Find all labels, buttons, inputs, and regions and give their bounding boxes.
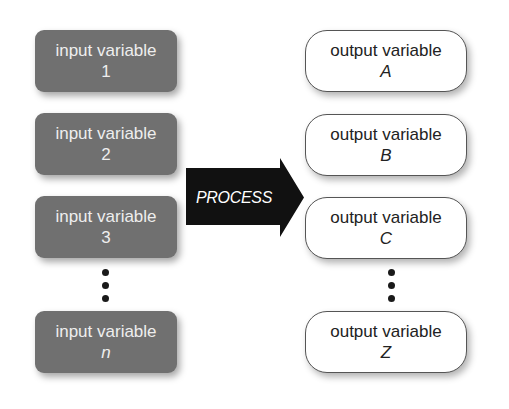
dot-icon — [102, 269, 109, 276]
input-variable-1-box: input variable 1 — [35, 30, 177, 92]
input-variable-3-box: input variable 3 — [35, 196, 177, 258]
input-variable-id: n — [101, 342, 110, 363]
output-variable-label: output variable — [330, 40, 442, 61]
input-ellipsis-dots — [102, 269, 110, 302]
process-arrow: PROCESS — [186, 158, 304, 237]
output-variable-c-box: output variable C — [305, 197, 467, 259]
dot-icon — [102, 295, 109, 302]
output-ellipsis-dots — [388, 269, 396, 302]
process-label: PROCESS — [186, 158, 282, 237]
output-variable-label: output variable — [330, 207, 442, 228]
output-variable-label: output variable — [330, 124, 442, 145]
input-variable-label: input variable — [55, 40, 156, 61]
input-variable-2-box: input variable 2 — [35, 113, 177, 175]
input-variable-n-box: input variable n — [35, 311, 177, 373]
input-variable-id: 3 — [101, 227, 110, 248]
dot-icon — [388, 269, 395, 276]
input-variable-label: input variable — [55, 123, 156, 144]
dot-icon — [388, 282, 395, 289]
output-variable-b-box: output variable B — [305, 114, 467, 176]
input-variable-label: input variable — [55, 206, 156, 227]
dot-icon — [102, 282, 109, 289]
output-variable-id: B — [380, 145, 391, 166]
output-variable-label: output variable — [330, 321, 442, 342]
output-variable-id: A — [380, 61, 391, 82]
input-variable-label: input variable — [55, 321, 156, 342]
input-variable-id: 2 — [101, 144, 110, 165]
input-variable-id: 1 — [101, 61, 110, 82]
output-variable-z-box: output variable Z — [305, 311, 467, 373]
output-variable-id: C — [380, 228, 392, 249]
dot-icon — [388, 295, 395, 302]
output-variable-id: Z — [381, 342, 391, 363]
output-variable-a-box: output variable A — [305, 30, 467, 92]
